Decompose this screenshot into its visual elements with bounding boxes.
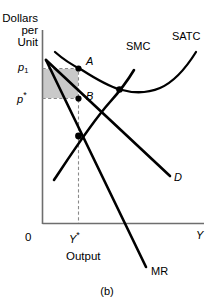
satc-label: SATC (172, 31, 201, 43)
point-a-marker (75, 65, 81, 71)
price-star-tick-label: p* (17, 91, 27, 105)
point-mr-smc-marker (75, 133, 82, 140)
x-axis-title: Output (66, 250, 101, 262)
output-star-superscript: * (76, 230, 80, 240)
figure-caption: (b) (0, 286, 214, 298)
price-high-tick-label: p1 (18, 62, 28, 74)
y-axis-title-line-1: Dollars (0, 12, 38, 24)
economics-diagram: Dollars per Unit p1 p* A B SMC SATC D MR… (0, 0, 214, 306)
y-axis-title-line-3: Unit (0, 36, 38, 48)
point-smc-satc-marker (116, 86, 123, 93)
point-a-label: A (86, 56, 93, 68)
point-b-marker (75, 95, 81, 101)
origin-label: 0 (25, 231, 31, 243)
marginal-revenue-label: MR (151, 266, 168, 278)
demand-label: D (174, 172, 182, 184)
x-axis-end-label: Y (196, 230, 203, 242)
y-axis-title: Dollars per Unit (0, 12, 38, 48)
y-axis-title-line-2: per (0, 24, 38, 36)
demand-curve (46, 60, 170, 176)
output-star-tick-label: Y* (69, 231, 80, 245)
smc-label: SMC (126, 41, 150, 53)
point-b-label: B (86, 91, 93, 103)
price-star-superscript: * (23, 90, 27, 100)
price-high-subscript: 1 (24, 66, 28, 75)
